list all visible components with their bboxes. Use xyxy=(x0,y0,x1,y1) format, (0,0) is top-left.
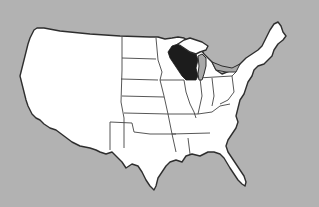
us-map: United States Wisconsin xyxy=(0,0,319,207)
map-canvas xyxy=(0,0,319,207)
